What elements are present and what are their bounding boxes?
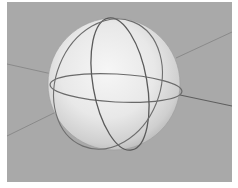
axis-line-left (7, 64, 52, 74)
sphere (48, 18, 180, 150)
axis-line-lower-right (180, 95, 232, 106)
axis-line-lower-left (7, 112, 56, 136)
axis-line-upper-right (176, 32, 232, 58)
sphere-render (0, 0, 238, 188)
